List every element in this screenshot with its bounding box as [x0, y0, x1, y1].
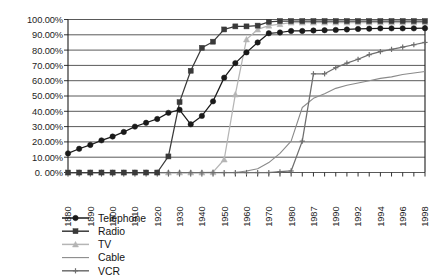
- x-tick-label: 1994: [376, 207, 386, 227]
- data-point-telephone: [389, 26, 394, 31]
- y-tick-label: 30.00%: [32, 122, 63, 132]
- data-point-telephone: [333, 27, 338, 32]
- x-tick-label: 1987: [309, 207, 319, 227]
- x-tick-label: 1950: [220, 207, 230, 227]
- data-point-telephone: [199, 113, 204, 118]
- data-point-telephone: [177, 107, 182, 112]
- legend-label: Cable: [98, 252, 125, 263]
- data-point-telephone: [121, 129, 126, 134]
- y-tick-label: 80.00%: [32, 46, 63, 56]
- x-tick-label: 1960: [242, 207, 252, 227]
- data-point-radio: [378, 19, 383, 24]
- data-point-radio: [411, 19, 416, 24]
- x-tick-label: 1992: [353, 207, 363, 227]
- data-point-radio: [244, 24, 249, 29]
- data-point-radio: [121, 170, 126, 175]
- data-point-radio: [188, 68, 193, 73]
- line-chart: 100.00%90.00%80.00%70.00%60.00%50.00%40.…: [0, 0, 441, 280]
- x-tick-label: 1880: [63, 207, 73, 227]
- data-point-radio: [333, 19, 338, 24]
- data-point-telephone: [76, 146, 81, 151]
- data-point-telephone: [244, 50, 249, 55]
- data-point-telephone: [400, 26, 405, 31]
- data-point-radio: [199, 45, 204, 50]
- data-point-radio: [99, 170, 104, 175]
- data-point-radio: [311, 19, 316, 24]
- data-point-radio: [110, 170, 115, 175]
- data-point-radio: [367, 19, 372, 24]
- x-tick-label: 1998: [420, 207, 430, 227]
- data-point-telephone: [311, 28, 316, 33]
- y-tick-label: 100.00%: [27, 15, 63, 25]
- data-point-radio: [277, 19, 282, 24]
- data-point-telephone: [300, 28, 305, 33]
- data-point-telephone: [65, 151, 70, 156]
- x-tick-label: 1980: [287, 207, 297, 227]
- data-point-telephone: [88, 142, 93, 147]
- data-point-radio: [423, 19, 428, 24]
- legend-label: TV: [98, 239, 111, 250]
- data-point-telephone: [132, 124, 137, 129]
- data-point-telephone: [355, 26, 360, 31]
- data-point-radio: [132, 170, 137, 175]
- data-point-telephone: [188, 122, 193, 127]
- data-point-radio: [389, 19, 394, 24]
- data-point-telephone: [378, 26, 383, 31]
- data-point-telephone: [411, 26, 416, 31]
- data-point-telephone: [266, 31, 271, 36]
- y-tick-label: 20.00%: [32, 137, 63, 147]
- data-point-radio: [356, 19, 361, 24]
- y-tick-label: 50.00%: [32, 91, 63, 101]
- data-point-telephone: [422, 26, 427, 31]
- data-point-telephone: [277, 30, 282, 35]
- data-point-telephone: [255, 40, 260, 45]
- y-tick-label: 40.00%: [32, 107, 63, 117]
- data-point-radio: [155, 170, 160, 175]
- data-point-radio: [233, 24, 238, 29]
- legend-marker: [73, 215, 78, 220]
- y-axis-tick-labels: 100.00%90.00%80.00%70.00%60.00%50.00%40.…: [27, 15, 63, 178]
- data-point-telephone: [210, 99, 215, 104]
- data-point-radio: [289, 19, 294, 24]
- data-point-radio: [266, 19, 271, 24]
- legend-label: Telephone: [98, 213, 146, 224]
- data-point-radio: [144, 170, 149, 175]
- chart-background: [0, 0, 441, 280]
- y-tick-label: 70.00%: [32, 61, 63, 71]
- x-tick-label: 1930: [175, 207, 185, 227]
- x-tick-label: 1970: [264, 207, 274, 227]
- data-point-radio: [88, 170, 93, 175]
- data-point-radio: [77, 170, 82, 175]
- data-point-telephone: [344, 27, 349, 32]
- y-tick-label: 10.00%: [32, 153, 63, 163]
- data-point-radio: [344, 19, 349, 24]
- x-tick-label: 1996: [398, 207, 408, 227]
- data-point-radio: [211, 39, 216, 44]
- data-point-radio: [177, 100, 182, 105]
- data-point-radio: [255, 23, 260, 28]
- data-point-telephone: [110, 134, 115, 139]
- data-point-telephone: [221, 75, 226, 80]
- data-point-telephone: [155, 116, 160, 121]
- x-tick-label: 1940: [197, 207, 207, 227]
- y-tick-label: 60.00%: [32, 76, 63, 86]
- data-point-telephone: [288, 28, 293, 33]
- data-point-radio: [166, 154, 171, 159]
- data-point-radio: [66, 170, 71, 175]
- data-point-radio: [400, 19, 405, 24]
- data-point-telephone: [322, 28, 327, 33]
- legend-label: Radio: [98, 226, 125, 237]
- data-point-radio: [322, 19, 327, 24]
- legend-marker: [73, 229, 78, 234]
- chart-container: 100.00%90.00%80.00%70.00%60.00%50.00%40.…: [0, 0, 441, 280]
- data-point-telephone: [233, 60, 238, 65]
- y-tick-label: 90.00%: [32, 30, 63, 40]
- data-point-radio: [300, 19, 305, 24]
- x-tick-label: 1920: [153, 207, 163, 227]
- data-point-telephone: [143, 120, 148, 125]
- legend-label: VCR: [98, 266, 120, 277]
- data-point-telephone: [99, 138, 104, 143]
- data-point-telephone: [367, 26, 372, 31]
- x-tick-label: 1890: [86, 207, 96, 227]
- x-tick-label: 1990: [331, 207, 341, 227]
